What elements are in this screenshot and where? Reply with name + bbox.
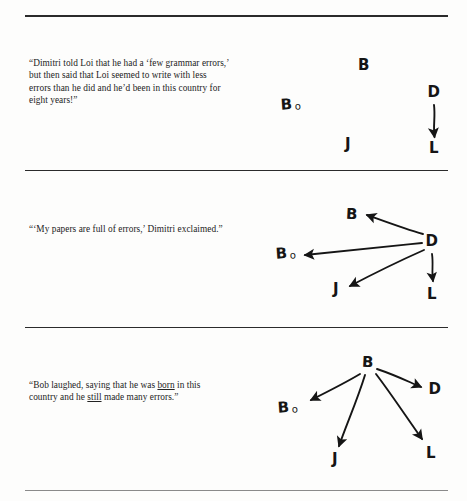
diagram-1: B Bo J D L [255, 17, 467, 169]
node-b-1: B [358, 56, 370, 74]
quote-text-3: “Bob laughed, saying that he was born in… [29, 379, 229, 404]
node-d-2: D [426, 232, 439, 250]
node-bo-1: Bo [280, 94, 302, 113]
arrow-b-to-j [339, 375, 365, 446]
node-b-3: B [362, 353, 375, 372]
node-j-2: J [333, 280, 339, 298]
arrow-d-to-l [432, 254, 433, 281]
diagram-3: B Bo J D L [255, 329, 467, 489]
panel-2: “‘My papers are full of errors,’ Dimitri… [0, 172, 467, 326]
node-j-1: J [345, 135, 351, 153]
arrow-b-to-bo [311, 374, 360, 400]
diagram-2: B Bo J D L [255, 172, 467, 326]
node-bo-2: Bo [275, 243, 297, 262]
node-d-1: D [428, 83, 441, 101]
scanned-page: “Dimitri told Loi that he had a ‘few gra… [0, 0, 467, 501]
quote-text-1: “Dimitri told Loi that he had a ‘few gra… [29, 57, 229, 107]
node-l-3: L [426, 444, 436, 462]
quote-text-2: “‘My papers are full of errors,’ Dimitri… [29, 223, 229, 235]
arrow-d-to-j [350, 250, 424, 286]
panel-3: “Bob laughed, saying that he was born in… [0, 329, 467, 489]
node-bo-3: Bo [277, 397, 299, 416]
node-l-2: L [427, 285, 437, 303]
node-b-2: B [346, 205, 359, 224]
node-d-3: D [429, 380, 442, 398]
bottom-rule [25, 490, 448, 491]
node-j-3: J [332, 450, 338, 468]
arrow-d-to-b [367, 215, 423, 234]
panel-1: “Dimitri told Loi that he had a ‘few gra… [0, 17, 467, 169]
arrow-d-to-l [434, 105, 435, 137]
arrow-d-to-bo [305, 243, 422, 255]
node-l-1: L [429, 139, 439, 157]
